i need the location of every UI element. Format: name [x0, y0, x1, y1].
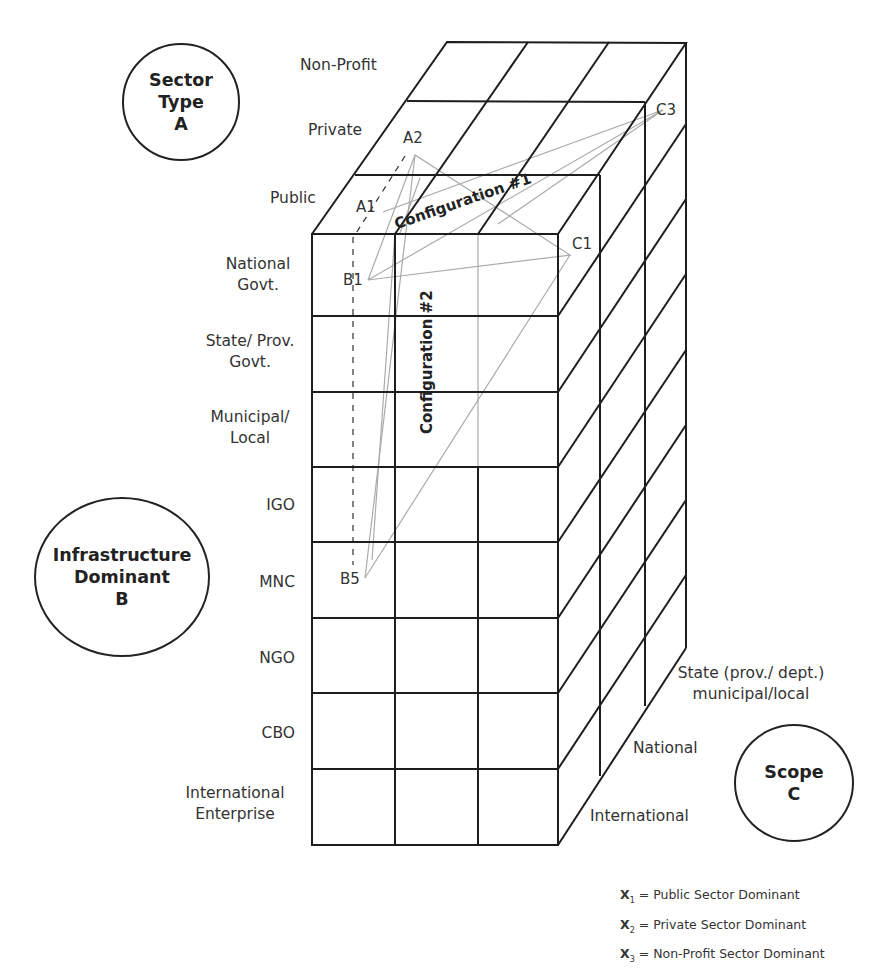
infra-label-line: State/ Prov.: [192, 331, 308, 352]
point-b5: B5: [340, 570, 360, 588]
infra-label-line: Enterprise: [170, 804, 300, 825]
infra-label-cbo: CBO: [200, 723, 295, 744]
infrastructure-dominant-circle: Infrastructure Dominant B: [34, 497, 210, 657]
sector-type-circle: Sector Type A: [122, 43, 240, 161]
cube-grid: [312, 42, 686, 845]
legend-text: = Non-Profit Sector Dominant: [635, 946, 825, 961]
scope-label-national: National: [633, 738, 698, 759]
infra-label-line: Local: [200, 428, 300, 449]
legend: X1 = Public Sector Dominant X2 = Private…: [620, 883, 825, 972]
infra-label-line: National: [208, 254, 308, 275]
scope-label-state: State (prov./ dept.) municipal/local: [674, 663, 828, 705]
infrastructure-title-2: Dominant: [74, 566, 170, 588]
scope-title: Scope: [764, 761, 823, 783]
legend-symbol: X: [620, 887, 630, 902]
infra-label-mnc: MNC: [200, 572, 295, 593]
infra-label-line: International: [170, 783, 300, 804]
infrastructure-letter: B: [115, 588, 128, 610]
point-c1: C1: [572, 235, 592, 253]
infra-label-national-govt: National Govt.: [208, 254, 308, 296]
legend-item-2: X2 = Private Sector Dominant: [620, 913, 825, 943]
sector-label-public: Public: [270, 188, 316, 209]
legend-item-3: X3 = Non-Profit Sector Dominant: [620, 942, 825, 972]
infra-label-line: Govt.: [208, 275, 308, 296]
legend-symbol: X: [620, 917, 630, 932]
point-a1: A1: [356, 198, 376, 216]
sector-label-non-profit: Non-Profit: [300, 55, 420, 76]
scope-letter: C: [788, 783, 801, 805]
point-a2: A2: [403, 129, 423, 147]
infra-label-municipal: Municipal/ Local: [200, 407, 300, 449]
infra-label-ngo: NGO: [200, 648, 295, 669]
legend-text: = Private Sector Dominant: [635, 917, 806, 932]
scope-label-line: municipal/local: [674, 684, 828, 705]
configuration-2-label: Configuration #2: [418, 290, 436, 434]
scope-circle: Scope C: [734, 724, 854, 842]
legend-text: = Public Sector Dominant: [635, 887, 800, 902]
infra-label-igo: IGO: [200, 495, 295, 516]
infra-label-line: Municipal/: [200, 407, 300, 428]
sector-type-letter: A: [174, 113, 188, 135]
infra-label-line: Govt.: [192, 352, 308, 373]
point-b1: B1: [343, 271, 363, 289]
infra-label-state-govt: State/ Prov. Govt.: [192, 331, 308, 373]
point-c3: C3: [656, 101, 676, 119]
legend-symbol: X: [620, 946, 630, 961]
sector-type-title: Sector: [149, 69, 213, 91]
infra-label-intl-enterprise: International Enterprise: [170, 783, 300, 825]
scope-label-line: State (prov./ dept.): [674, 663, 828, 684]
sector-type-title-2: Type: [158, 91, 204, 113]
legend-item-1: X1 = Public Sector Dominant: [620, 883, 825, 913]
cube-diagram: [0, 0, 888, 975]
sector-label-private: Private: [308, 120, 362, 141]
scope-label-international: International: [590, 806, 689, 827]
infrastructure-title: Infrastructure: [53, 544, 192, 566]
